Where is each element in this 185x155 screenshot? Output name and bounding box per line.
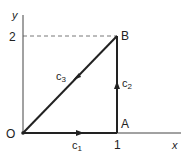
path-label-c1: c1 <box>72 139 83 153</box>
point-label-b: B <box>121 29 129 43</box>
y-tick-2: 2 <box>9 30 16 44</box>
y-axis-label: y <box>11 9 19 21</box>
path-c3 <box>23 36 117 133</box>
x-tick-1: 1 <box>114 138 121 152</box>
path-label-c2: c2 <box>122 77 133 91</box>
point-label-a: A <box>121 117 129 131</box>
x-axis-label: x <box>171 139 178 151</box>
point-origin <box>21 131 25 135</box>
diagram-canvas: y x 2 1 O A B c1 c2 c3 <box>0 0 185 155</box>
path-label-c3: c3 <box>56 70 67 84</box>
arrow-c1-icon <box>76 130 84 136</box>
arrow-c2-icon <box>114 81 120 89</box>
point-label-origin: O <box>6 127 15 141</box>
